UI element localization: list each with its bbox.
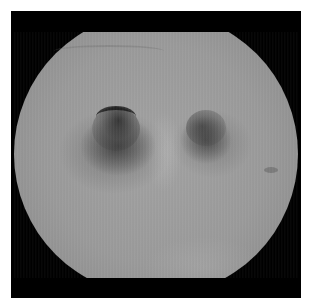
mucosal-mark [264,167,278,173]
right-bronchus-opening [186,110,226,146]
left-opening-rim [96,106,136,128]
endoscope-field-of-view [14,32,298,278]
scan-line-texture [14,32,298,278]
airway-lumen [14,32,298,278]
mucosal-fold [54,45,164,57]
black-frame [11,11,301,298]
